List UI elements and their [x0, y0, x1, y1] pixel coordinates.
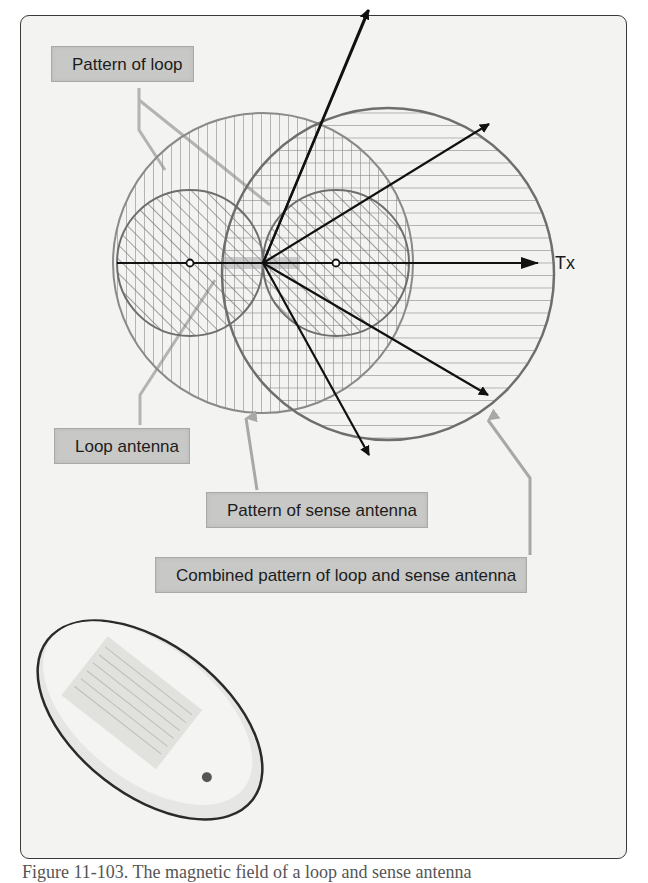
- label-loop-antenna: Loop antenna: [54, 428, 190, 464]
- beacon-device-photo: [1, 581, 298, 859]
- figure-caption: Figure 11-103. The magnetic field of a l…: [22, 862, 471, 883]
- loop-center-right: [333, 260, 340, 267]
- loop-center-left: [187, 260, 194, 267]
- combined-pattern-pointer: [488, 420, 530, 555]
- label-combined-pattern: Combined pattern of loop and sense anten…: [155, 557, 527, 593]
- sense-pattern-pointer: [246, 418, 257, 490]
- label-pattern-of-sense-antenna: Pattern of sense antenna: [206, 492, 428, 528]
- label-pattern-of-loop: Pattern of loop: [51, 46, 194, 82]
- label-tx: Tx: [555, 253, 575, 274]
